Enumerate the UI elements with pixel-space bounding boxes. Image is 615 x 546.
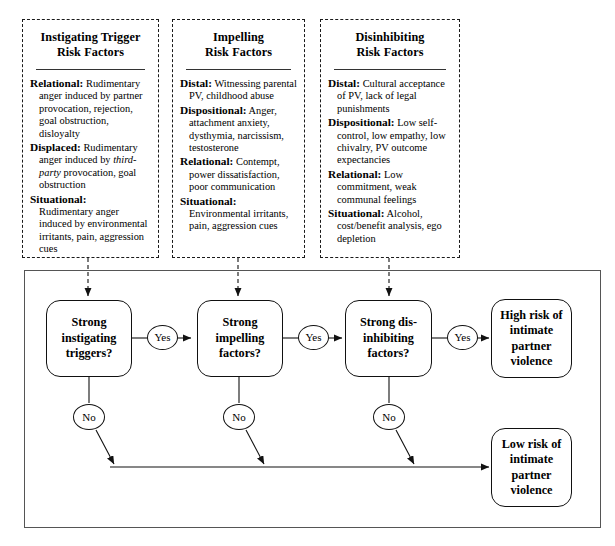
factor-disinhibiting-relational: Relational: Low commitment, weak communa…: [328, 168, 452, 206]
factor-label: Distal:: [180, 77, 212, 89]
panel-disinhibiting-title-line2: Risk Factors: [356, 45, 423, 59]
factor-impelling-situational: Situational: Environmental irritants, pa…: [180, 195, 297, 233]
factor-disinhibiting-dispositional: Dispositional: Low self-control, low emp…: [328, 116, 452, 167]
yes-label: Yes: [305, 332, 321, 343]
panel-impelling: Impelling Risk Factors Distal: Witnessin…: [172, 19, 305, 258]
panel-disinhibiting-title: Disinhibiting Risk Factors: [328, 30, 452, 60]
yes-label: Yes: [154, 332, 170, 343]
outcome-line4: violence: [511, 483, 553, 497]
factor-impelling-dispositional: Dispositional: Anger, attachment anxiety…: [180, 104, 297, 155]
decision-line2: inhibiting: [363, 331, 414, 345]
decision-label: Strong instigating triggers?: [62, 315, 117, 362]
decision-line3: factors?: [219, 346, 261, 360]
panel-instigating-title: Instigating Trigger Risk Factors: [30, 30, 151, 60]
outcome-line2: intimate: [510, 452, 553, 466]
outcome-low-risk[interactable]: Low risk of intimate partner violence: [491, 428, 572, 507]
no-pill-disinhibiting[interactable]: No: [373, 404, 405, 430]
factor-label: Relational:: [180, 155, 233, 167]
decision-label: Strong impelling factors?: [216, 315, 265, 362]
factor-label: Situational:: [328, 207, 385, 219]
panel-disinhibiting-title-line1: Disinhibiting: [355, 30, 424, 44]
factor-instigating-situational: Situational: Rudimentary anger induced b…: [30, 193, 151, 256]
factor-label: Displaced:: [30, 141, 81, 153]
yes-label: Yes: [454, 332, 470, 343]
decision-line1: Strong dis-: [360, 315, 417, 329]
outcome-high-risk[interactable]: High risk of intimate partner violence: [491, 299, 572, 378]
factor-label: Dispositional:: [180, 104, 247, 116]
outcome-label: High risk of intimate partner violence: [500, 308, 562, 370]
no-label: No: [382, 412, 395, 423]
panel-impelling-title-line2: Risk Factors: [205, 45, 272, 59]
panel-impelling-divider: [186, 69, 291, 70]
panel-instigating-title-line2: Risk Factors: [57, 45, 124, 59]
decision-line3: factors?: [368, 346, 410, 360]
outcome-line3: partner: [512, 468, 552, 482]
decision-line1: Strong: [222, 315, 257, 329]
panel-instigating-trigger: Instigating Trigger Risk Factors Relatio…: [22, 19, 159, 258]
panel-impelling-title-line1: Impelling: [213, 30, 264, 44]
factor-instigating-relational: Relational: Rudimentary anger induced by…: [30, 77, 151, 140]
factor-italic-phrase: third-party: [39, 154, 136, 177]
factor-label: Relational:: [328, 168, 381, 180]
decision-label: Strong dis- inhibiting factors?: [360, 315, 417, 362]
no-pill-impelling[interactable]: No: [223, 404, 255, 430]
factor-impelling-relational: Relational: Contempt, power dissatisfact…: [180, 155, 297, 193]
panel-disinhibiting-divider: [334, 69, 446, 70]
outcome-line1: High risk of: [500, 308, 562, 322]
yes-pill-impelling[interactable]: Yes: [298, 325, 329, 350]
factor-label: Relational:: [30, 77, 83, 89]
factor-disinhibiting-distal: Distal: Cultural acceptance of PV, lack …: [328, 77, 452, 115]
decision-strong-impelling-factors[interactable]: Strong impelling factors?: [197, 300, 283, 377]
outcome-label: Low risk of intimate partner violence: [502, 437, 562, 499]
panel-instigating-title-line1: Instigating Trigger: [41, 30, 141, 44]
factor-label: Distal:: [328, 77, 360, 89]
outcome-line2: intimate: [510, 323, 553, 337]
yes-pill-disinhibiting[interactable]: Yes: [447, 325, 478, 350]
outcome-line3: partner: [512, 339, 552, 353]
yes-pill-instigating[interactable]: Yes: [147, 325, 178, 350]
decision-strong-instigating-triggers[interactable]: Strong instigating triggers?: [46, 300, 132, 377]
factor-label: Situational:: [30, 193, 87, 205]
factor-disinhibiting-situational: Situational: Alcohol, cost/benefit analy…: [328, 207, 452, 245]
no-label: No: [82, 412, 95, 423]
factor-label: Situational:: [180, 195, 237, 207]
decision-line1: Strong: [71, 315, 106, 329]
no-pill-instigating[interactable]: No: [73, 404, 105, 430]
decision-line2: instigating: [62, 331, 117, 345]
factor-instigating-displaced: Displaced: Rudimentary anger induced by …: [30, 141, 151, 192]
panel-disinhibiting: Disinhibiting Risk Factors Distal: Cultu…: [320, 19, 460, 258]
decision-strong-disinhibiting-factors[interactable]: Strong dis- inhibiting factors?: [345, 300, 432, 377]
figure-canvas: Instigating Trigger Risk Factors Relatio…: [0, 0, 615, 546]
factor-impelling-distal: Distal: Witnessing parental PV, childhoo…: [180, 77, 297, 103]
no-label: No: [232, 412, 245, 423]
panel-impelling-title: Impelling Risk Factors: [180, 30, 297, 60]
factor-text: Environmental irritants, pain, aggressio…: [189, 208, 288, 231]
decision-line2: impelling: [216, 331, 265, 345]
panel-instigating-divider: [36, 69, 145, 70]
factor-text: Rudimentary anger induced by environment…: [39, 206, 148, 254]
outcome-line4: violence: [511, 354, 553, 368]
decision-line3: triggers?: [66, 346, 113, 360]
outcome-line1: Low risk of: [502, 437, 562, 451]
factor-label: Dispositional:: [328, 116, 395, 128]
